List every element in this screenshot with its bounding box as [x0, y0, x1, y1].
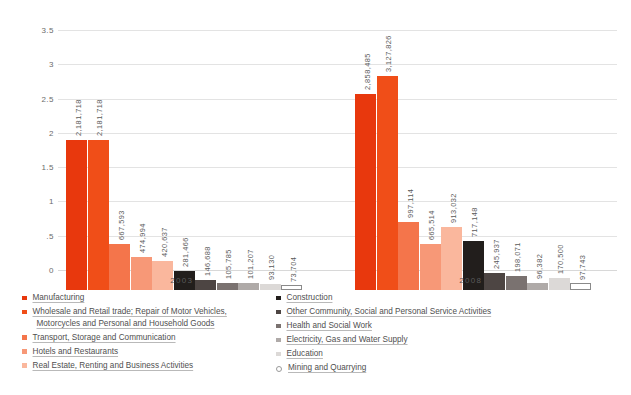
y-axis-tick-label: .5 [22, 231, 54, 240]
y-axis-tick-label: 1.5 [22, 163, 54, 172]
legend-item[interactable]: Manufacturing [22, 292, 274, 304]
bar[interactable]: 2,181,718 [66, 140, 87, 290]
legend-swatch-icon [22, 363, 27, 368]
legend-swatch-icon [276, 296, 281, 301]
bar-group-2003: 2,181,7182,181,718667,593474,994420,6372… [66, 8, 303, 290]
legend-item[interactable]: Other Community, Social and Personal Ser… [276, 306, 576, 318]
legend-column-right: ConstructionOther Community, Social and … [276, 292, 576, 376]
bar-chart: in Millions 3.532.521.51.50 2,181,7182,1… [0, 0, 631, 395]
bar-value-label: 73,704 [288, 257, 297, 282]
legend-label: Real Estate, Renting and Business Activi… [33, 360, 194, 372]
y-axis-tick-label: 0 [22, 266, 54, 275]
legend-item[interactable]: Electricity, Gas and Water Supply [276, 334, 576, 346]
legend-label: Other Community, Social and Personal Ser… [287, 306, 492, 318]
bar-value-label: 997,114 [405, 188, 414, 217]
bar-value-label: 96,382 [534, 254, 543, 279]
bar-value-label: 667,593 [116, 210, 125, 240]
bars-layer: 2,181,7182,181,718667,593474,994420,6372… [58, 8, 617, 290]
y-axis-tick-label: 2 [22, 128, 54, 137]
bar-value-label: 2,858,485 [362, 53, 371, 90]
legend-item[interactable]: Education [276, 348, 576, 360]
legend-label: Manufacturing [33, 292, 85, 304]
legend-label: Mining and Quarrying [288, 362, 366, 374]
y-axis-tick-label: 1 [22, 197, 54, 206]
bar[interactable]: 73,704 [281, 285, 302, 290]
bar[interactable]: 101,207 [238, 283, 259, 290]
legend-label: Construction [287, 292, 333, 304]
bar-value-label: 97,743 [577, 255, 586, 280]
bar[interactable]: 3,127,826 [377, 76, 398, 290]
bar-value-label: 101,207 [245, 249, 254, 279]
bar-value-label: 2,181,718 [95, 99, 104, 136]
legend-swatch-icon [276, 338, 281, 343]
y-axis-tick-label: 2.5 [22, 94, 54, 103]
legend-swatch-icon [276, 366, 282, 372]
legend-column-left: ManufacturingWholesale and Retail trade;… [22, 292, 274, 374]
legend-label: Health and Social Work [287, 320, 372, 332]
bar-value-label: 474,994 [138, 224, 147, 254]
legend-swatch-icon [22, 296, 27, 301]
y-axis-tick-label: 3.5 [22, 26, 54, 35]
legend-item[interactable]: Wholesale and Retail trade; Repair of Mo… [22, 306, 274, 329]
bar-value-label: 198,071 [513, 243, 522, 273]
bar-value-label: 420,637 [159, 227, 168, 257]
bar-value-label: 146,688 [202, 246, 211, 276]
bar[interactable]: 665,514 [420, 244, 441, 290]
bar[interactable]: 97,743 [570, 283, 591, 290]
legend-label-line2: Motorcycles and Personal and Household G… [33, 318, 227, 330]
legend-label: Education [287, 348, 323, 360]
legend-label: Wholesale and Retail trade; Repair of Mo… [33, 306, 227, 329]
bar-value-label: 3,127,826 [384, 35, 393, 72]
bar-value-label: 665,514 [427, 211, 436, 241]
bar[interactable]: 93,130 [260, 284, 281, 290]
legend-label: Electricity, Gas and Water Supply [287, 334, 408, 346]
legend-swatch-icon [276, 324, 281, 329]
bar[interactable]: 2,181,718 [88, 140, 109, 290]
legend-item[interactable]: Mining and Quarrying [276, 362, 576, 374]
legend-label: Transport, Storage and Communication [33, 332, 176, 344]
bar[interactable]: 170,500 [549, 278, 570, 290]
y-axis-tick-label: 3 [22, 60, 54, 69]
bar-value-label: 913,032 [448, 194, 457, 224]
bar-value-label: 170,500 [556, 244, 565, 274]
bar-value-label: 2,181,718 [73, 99, 82, 136]
legend-swatch-icon [276, 352, 281, 357]
legend-item[interactable]: Construction [276, 292, 576, 304]
legend-swatch-icon [22, 335, 27, 340]
legend-item[interactable]: Health and Social Work [276, 320, 576, 332]
bar[interactable]: 997,114 [398, 222, 419, 290]
bar[interactable]: 667,593 [109, 244, 130, 290]
bar[interactable]: 198,071 [506, 276, 527, 290]
bar-group-2008: 2,858,4853,127,826997,114665,514913,0327… [355, 8, 592, 290]
legend-item[interactable]: Real Estate, Renting and Business Activi… [22, 360, 274, 372]
bar-value-label: 105,785 [224, 249, 233, 279]
legend-swatch-icon [22, 310, 27, 315]
legend-item[interactable]: Hotels and Restaurants [22, 346, 274, 358]
bar-value-label: 245,937 [491, 239, 500, 269]
bar[interactable]: 96,382 [527, 283, 548, 290]
bar[interactable]: 146,688 [195, 280, 216, 290]
bar-value-label: 93,130 [267, 254, 276, 279]
legend-label: Hotels and Restaurants [33, 346, 119, 358]
bar-value-label: 281,466 [181, 237, 190, 267]
legend-swatch-icon [22, 349, 27, 354]
plot-area: in Millions 3.532.521.51.50 2,181,7182,1… [0, 8, 631, 290]
legend-swatch-icon [276, 310, 281, 315]
bar[interactable]: 2,858,485 [355, 94, 376, 290]
bar-value-label: 717,148 [470, 207, 479, 237]
x-axis-label-2003: 2003 [170, 276, 193, 285]
legend-item[interactable]: Transport, Storage and Communication [22, 332, 274, 344]
bar[interactable]: 474,994 [131, 257, 152, 290]
bar[interactable]: 105,785 [217, 283, 238, 290]
bar[interactable]: 245,937 [484, 273, 505, 290]
x-axis-label-2008: 2008 [459, 276, 482, 285]
chart-legend: ManufacturingWholesale and Retail trade;… [14, 292, 619, 392]
